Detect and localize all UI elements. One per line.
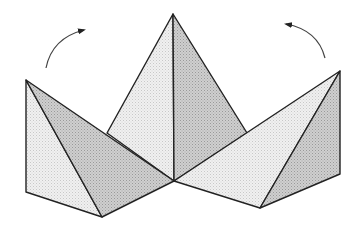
right-fold-arrow-icon xyxy=(286,24,325,58)
left-fold-arrow-icon xyxy=(46,30,84,68)
folding-diagram xyxy=(0,0,359,232)
diagram-canvas xyxy=(0,0,359,232)
